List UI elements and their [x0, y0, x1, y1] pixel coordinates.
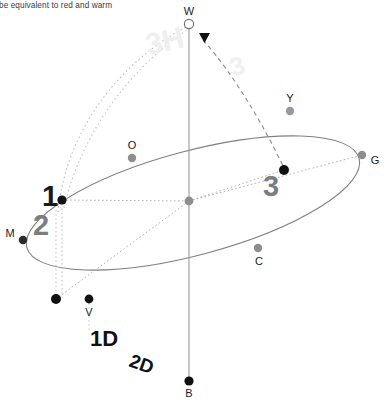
point-M[interactable]: M [5, 227, 27, 244]
point-C[interactable]: C [254, 244, 263, 267]
point-marker-v[interactable] [85, 295, 94, 304]
point-V[interactable]: V [85, 295, 94, 318]
point-label-o: O [128, 139, 137, 151]
point-marker-g[interactable] [358, 151, 366, 159]
point-Y[interactable]: Y [286, 92, 295, 115]
point-label-b: B [185, 387, 192, 399]
point-marker-o[interactable] [128, 154, 136, 162]
point-marker-p1[interactable] [51, 294, 61, 304]
point-label-g: G [371, 154, 380, 166]
arrowhead-icon [199, 33, 210, 43]
watermark-group: 3H 3 [142, 21, 248, 83]
point-label-m: M [5, 227, 14, 239]
dimension-label-1d: 1D [90, 326, 118, 351]
point-marker-p3[interactable] [279, 165, 289, 175]
point-marker-w[interactable] [184, 19, 193, 28]
point-label-c: C [255, 255, 263, 267]
point-marker-m[interactable] [19, 236, 27, 244]
point-G[interactable]: G [358, 151, 379, 166]
point-label-v: V [85, 306, 93, 318]
dashed-motion-arc [199, 33, 284, 168]
dotted-horizontal-1 [62, 200, 189, 201]
point-W[interactable]: W [184, 5, 195, 29]
point-label-y: Y [286, 92, 294, 104]
watermark-0: 3H [142, 21, 186, 61]
number-label-3: 3 [263, 170, 279, 202]
point-label-w: W [184, 5, 195, 17]
orbit-ellipse [13, 108, 372, 297]
number-label-1: 1 [42, 180, 58, 212]
point-B[interactable]: B [184, 376, 193, 399]
projection-lines [56, 155, 362, 330]
dimension-label-2d: 2D [127, 350, 157, 378]
ellipse-path [13, 108, 372, 297]
point-marker-c[interactable] [254, 244, 262, 252]
dashed-arc-path [203, 40, 284, 168]
watermark-1: 3 [226, 50, 249, 83]
point-marker-b[interactable] [184, 376, 193, 385]
point-marker-p2[interactable] [57, 195, 66, 204]
diagram-canvas: 3H 3 W B M G O C Y V 1 2 3 1D 2 [0, 0, 387, 402]
point-O[interactable]: O [128, 139, 137, 162]
diagram-svg: 3H 3 W B M G O C Y V 1 2 3 1D 2 [0, 0, 387, 402]
point-marker-center[interactable] [185, 197, 194, 206]
number-label-2: 2 [33, 209, 49, 241]
dotted-line-center-to-p1 [56, 201, 189, 299]
point-marker-y[interactable] [286, 107, 294, 115]
